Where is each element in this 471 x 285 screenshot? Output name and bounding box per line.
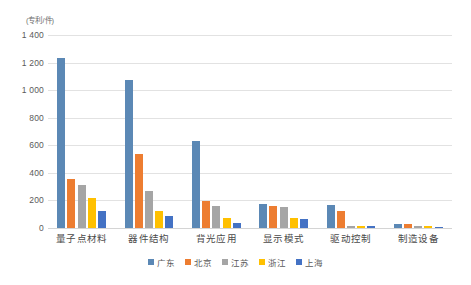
bar-slot <box>394 35 402 228</box>
bar[interactable] <box>155 211 163 228</box>
legend-item[interactable]: 上海 <box>296 256 323 268</box>
bar-slot <box>78 35 86 228</box>
bar[interactable] <box>78 185 86 228</box>
bar[interactable] <box>337 211 345 228</box>
bar-slot <box>259 35 267 228</box>
bar-group <box>48 35 115 228</box>
bar-slot <box>327 35 335 228</box>
legend-swatch-icon <box>148 259 154 265</box>
bar-slot <box>98 35 106 228</box>
bar-slot <box>424 35 432 228</box>
bar-slot <box>155 35 163 228</box>
bar-slot <box>212 35 220 228</box>
bar[interactable] <box>269 206 277 228</box>
bar-group <box>115 35 182 228</box>
bar[interactable] <box>424 226 432 228</box>
bar[interactable] <box>202 201 210 228</box>
legend-item-label: 浙江 <box>268 256 286 268</box>
legend-item[interactable]: 北京 <box>185 256 212 268</box>
legend-item-label: 江苏 <box>231 256 249 268</box>
gridline <box>48 228 452 229</box>
bar-slot <box>67 35 75 228</box>
bar-slot <box>269 35 277 228</box>
x-axis-tick-label: 驱动控制 <box>317 231 384 245</box>
y-axis-tick-label: 400 <box>29 168 44 178</box>
bar[interactable] <box>223 218 231 228</box>
y-axis-tick-label: 600 <box>29 140 44 150</box>
bar-slot <box>367 35 375 228</box>
legend-item-label: 上海 <box>305 256 323 268</box>
y-axis-tick-label: 200 <box>29 195 44 205</box>
bar-slot <box>414 35 422 228</box>
bar-group <box>317 35 384 228</box>
legend-item-label: 北京 <box>194 256 212 268</box>
bar-slot <box>290 35 298 228</box>
bar-slot <box>337 35 345 228</box>
bar-slot <box>223 35 231 228</box>
bar-group <box>385 35 452 228</box>
bar[interactable] <box>435 227 443 228</box>
x-axis-tick-label: 显示模式 <box>250 231 317 245</box>
x-axis-tick-labels: 量子点材料器件结构背光应用显示模式驱动控制制造设备 <box>48 231 452 245</box>
bar-chart: (专利/件) 02004006008001 0001 2001 400 量子点材… <box>0 0 471 285</box>
x-axis-tick-label: 背光应用 <box>183 231 250 245</box>
bar-group <box>250 35 317 228</box>
y-axis-tick-label: 1 400 <box>22 30 44 40</box>
bar-slot <box>300 35 308 228</box>
legend-swatch-icon <box>296 259 302 265</box>
bar[interactable] <box>212 206 220 228</box>
legend-item-label: 广东 <box>157 256 175 268</box>
bar[interactable] <box>347 226 355 228</box>
bar[interactable] <box>88 198 96 228</box>
bar[interactable] <box>98 211 106 228</box>
bar-slot <box>357 35 365 228</box>
bar[interactable] <box>394 224 402 228</box>
bar-slot <box>125 35 133 228</box>
bar-slot <box>347 35 355 228</box>
bar[interactable] <box>192 141 200 228</box>
bar[interactable] <box>233 223 241 228</box>
bar-group <box>183 35 250 228</box>
bar[interactable] <box>290 218 298 228</box>
bar[interactable] <box>414 226 422 228</box>
bar-slot <box>192 35 200 228</box>
y-axis-tick-label: 1 000 <box>22 85 44 95</box>
bar-groups <box>48 35 452 228</box>
legend-item[interactable]: 广东 <box>148 256 175 268</box>
bar[interactable] <box>57 58 65 228</box>
x-axis-tick-label: 量子点材料 <box>48 231 115 245</box>
y-axis-tick-label: 1 200 <box>22 58 44 68</box>
legend-swatch-icon <box>222 259 228 265</box>
bar-slot <box>135 35 143 228</box>
bar-slot <box>280 35 288 228</box>
bar-slot <box>165 35 173 228</box>
bar[interactable] <box>67 179 75 228</box>
bar-slot <box>145 35 153 228</box>
legend-item[interactable]: 浙江 <box>259 256 286 268</box>
bar-slot <box>404 35 412 228</box>
bar[interactable] <box>165 216 173 228</box>
y-axis-unit-label: (专利/件) <box>26 14 54 25</box>
bar-slot <box>202 35 210 228</box>
legend-swatch-icon <box>259 259 265 265</box>
y-axis-tick-labels: 02004006008001 0001 2001 400 <box>8 35 44 228</box>
x-axis-tick-label: 制造设备 <box>385 231 452 245</box>
bar-slot <box>57 35 65 228</box>
y-axis-tick-label: 0 <box>39 223 44 233</box>
bar-slot <box>435 35 443 228</box>
bar[interactable] <box>357 226 365 228</box>
bar[interactable] <box>125 80 133 228</box>
bar[interactable] <box>145 191 153 228</box>
bar[interactable] <box>259 204 267 228</box>
bar[interactable] <box>367 226 375 228</box>
bar[interactable] <box>280 207 288 228</box>
legend-item[interactable]: 江苏 <box>222 256 249 268</box>
bar[interactable] <box>327 205 335 228</box>
bar[interactable] <box>135 154 143 228</box>
bar-slot <box>88 35 96 228</box>
bar[interactable] <box>404 224 412 228</box>
bar[interactable] <box>300 219 308 228</box>
x-axis-tick-label: 器件结构 <box>115 231 182 245</box>
y-axis-tick-label: 800 <box>29 113 44 123</box>
legend-swatch-icon <box>185 259 191 265</box>
